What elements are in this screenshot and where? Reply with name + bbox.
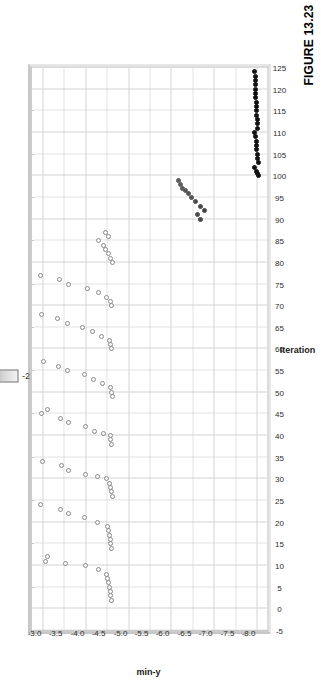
data-point <box>59 463 64 468</box>
y-tick-label: -6.0 <box>156 629 170 637</box>
x-tick-label: 90 <box>275 216 284 224</box>
x-tick-label: 105 <box>272 151 285 159</box>
data-point <box>193 199 198 204</box>
y-tick-label: -7.0 <box>199 629 213 637</box>
data-point <box>57 506 62 511</box>
data-point <box>104 524 109 529</box>
x-tick-label: 120 <box>272 86 285 94</box>
x-tick-label: 45 <box>275 410 284 418</box>
x-tick-label: 40 <box>275 432 284 440</box>
data-point <box>39 459 44 464</box>
data-point <box>100 242 105 247</box>
x-tick-label: 55 <box>275 367 284 375</box>
data-point <box>197 203 202 208</box>
data-point <box>99 381 104 386</box>
x-tick-label: 100 <box>272 172 285 180</box>
x-tick-label: 95 <box>275 194 284 202</box>
data-point <box>81 515 86 520</box>
data-point <box>82 472 87 477</box>
data-point <box>37 272 42 277</box>
data-point <box>90 329 95 334</box>
y-tick-label: -3.0 <box>27 629 41 637</box>
x-tick-label: 20 <box>275 519 284 527</box>
x-tick-label: 115 <box>273 107 286 115</box>
x-tick-label: 75 <box>275 281 284 289</box>
y-tick-label: -4.0 <box>70 629 84 637</box>
x-tick-label: 85 <box>275 237 284 245</box>
data-point <box>66 511 71 516</box>
x-tick-label: 0 <box>277 605 281 613</box>
gridline-horizontal <box>235 67 236 630</box>
plot-area <box>31 67 267 630</box>
data-point <box>107 298 112 303</box>
data-point <box>95 567 100 572</box>
data-point <box>95 238 100 243</box>
data-point <box>54 316 59 321</box>
data-point <box>95 290 100 295</box>
data-point <box>106 337 111 342</box>
data-point <box>44 554 49 559</box>
x-tick-label: -5 <box>275 627 282 635</box>
data-point <box>81 372 86 377</box>
x-tick-label: 80 <box>275 259 284 267</box>
y-tick-label: -5.5 <box>134 629 148 637</box>
data-point <box>82 563 87 568</box>
y-tick-label: -5.0 <box>113 629 127 637</box>
gridline-horizontal <box>149 67 150 630</box>
x-tick-label: 110 <box>273 129 286 137</box>
data-point <box>38 411 43 416</box>
data-point <box>82 424 87 429</box>
data-point <box>80 324 85 329</box>
data-point <box>107 385 112 390</box>
data-point <box>176 177 181 182</box>
data-point <box>103 229 108 234</box>
data-point <box>66 467 71 472</box>
data-point <box>104 571 109 576</box>
y-tick-label: -7.5 <box>220 629 234 637</box>
x-tick-label: 5 <box>277 584 281 592</box>
data-point <box>98 333 103 338</box>
data-point <box>38 502 43 507</box>
gridline-horizontal <box>128 67 129 630</box>
data-point <box>94 519 99 524</box>
data-point <box>91 376 96 381</box>
x-tick-label: 15 <box>275 540 284 548</box>
data-point <box>56 363 61 368</box>
data-point <box>63 560 68 565</box>
figure-caption: FIGURE 13.23 <box>301 4 315 85</box>
x-axis-title: Iteration <box>292 68 302 631</box>
y-tick-label: -6.5 <box>177 629 191 637</box>
x-tick-label: 125 <box>272 64 285 72</box>
data-point <box>84 285 89 290</box>
y-tick-label: -8.0 <box>241 629 255 637</box>
data-point <box>57 415 62 420</box>
x-tick-label: 70 <box>275 302 284 310</box>
data-point <box>65 368 70 373</box>
gridline-horizontal <box>42 67 43 630</box>
gridline-horizontal <box>63 67 64 630</box>
data-point <box>40 359 45 364</box>
data-point <box>107 433 112 438</box>
y-axis-title: min-y <box>30 663 266 681</box>
data-point <box>201 207 206 212</box>
x-tick-label: 25 <box>275 497 284 505</box>
gridline-horizontal <box>106 67 107 630</box>
data-point <box>195 212 200 217</box>
plot-frame <box>30 66 268 631</box>
gridline-horizontal <box>213 67 214 630</box>
data-point <box>92 428 97 433</box>
data-point <box>104 476 109 481</box>
x-tick-label: 35 <box>275 454 284 462</box>
x-tick-label: 65 <box>275 324 284 332</box>
data-point <box>56 277 61 282</box>
y-tick-label: -3.5 <box>48 629 62 637</box>
data-point <box>44 407 49 412</box>
x-tick-label: 10 <box>275 562 284 570</box>
data-point <box>38 311 43 316</box>
gridline-horizontal <box>170 67 171 630</box>
data-point <box>66 420 71 425</box>
data-point <box>64 320 69 325</box>
x-tick-label: 50 <box>275 389 284 397</box>
